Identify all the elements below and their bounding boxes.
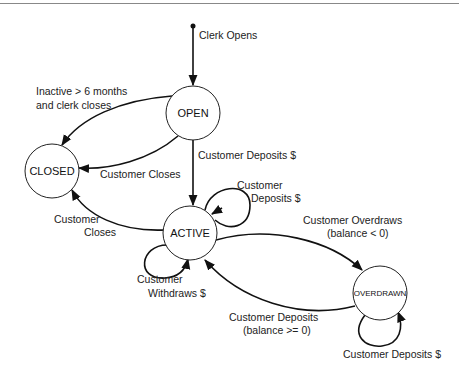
edge-overdrawn-to-active [205,260,355,310]
label-inactive-line2: and clerk closes [36,99,111,111]
label-overdraws-line1: Customer Overdraws [303,214,402,226]
edge-customer-closes-open [79,136,178,168]
label-active-closes-line1: Customer [54,213,100,225]
label-overdrawn-deposits-line2: (balance >= 0) [243,324,311,336]
state-overdrawn-label: OVERDRAWN [354,289,407,298]
label-withdraw-line1: Customer [137,273,183,285]
state-open-label: OPEN [177,107,208,119]
initial-state-dot [191,24,196,29]
edge-active-to-overdrawn [216,234,362,270]
label-clerk-opens: Clerk Opens [199,29,257,41]
state-active: ACTIVE [163,206,217,260]
label-overdrawn-loop: Customer Deposits $ [343,348,441,360]
label-inactive-line1: Inactive > 6 months [36,85,127,97]
state-diagram: OPEN CLOSED ACTIVE OVERDRAWN Clerk Opens… [0,0,459,379]
state-overdrawn: OVERDRAWN [353,266,407,320]
state-closed-label: CLOSED [29,165,74,177]
label-overdraws-line2: (balance < 0) [327,227,389,239]
state-closed: CLOSED [25,144,79,198]
label-active-deposit-line2: Deposits $ [251,192,301,204]
label-active-deposit-line1: Customer [237,179,283,191]
label-overdrawn-deposits-line1: Customer Deposits [229,311,318,323]
label-withdraw-line2: Withdraws $ [148,287,206,299]
edge-active-deposit-loop-head [212,208,222,214]
state-open: OPEN [166,86,220,140]
label-open-to-active: Customer Deposits $ [198,149,296,161]
state-active-label: ACTIVE [170,227,210,239]
label-active-closes-line2: Closes [84,226,116,238]
label-customer-closes-open: Customer Closes [100,168,181,180]
